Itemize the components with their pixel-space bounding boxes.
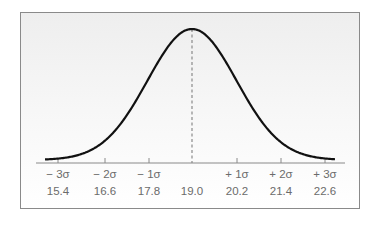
tick-value-15-4: 15.4	[47, 185, 69, 197]
tick-label-minus1sigma: − 1σ	[137, 168, 160, 180]
tick-value-21-4: 21.4	[270, 185, 292, 197]
tick-label-minus2sigma: − 2σ	[93, 168, 116, 180]
tick-label-plus1sigma: + 1σ	[225, 168, 248, 180]
tick-label-plus3sigma: + 3σ	[313, 168, 336, 180]
tick-label-plus2sigma: + 2σ	[269, 168, 292, 180]
normal-curve	[45, 29, 335, 159]
tick-value-20-2: 20.2	[226, 185, 248, 197]
tick-value-17-8: 17.8	[138, 185, 160, 197]
tick-label-minus3sigma: − 3σ	[46, 168, 69, 180]
tick-value-22-6: 22.6	[314, 185, 336, 197]
tick-value-19-0: 19.0	[181, 185, 203, 197]
tick-value-16-6: 16.6	[94, 185, 116, 197]
